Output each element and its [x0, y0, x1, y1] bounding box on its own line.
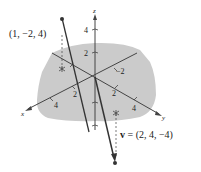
x-axis-label: x	[20, 110, 25, 118]
x-axis-arrow-icon	[25, 106, 32, 111]
y-tick-4: 4	[132, 104, 136, 113]
vector-value: = (2, 4, −4)	[125, 129, 173, 140]
x-tick-2: 2	[73, 90, 77, 99]
z-tick-4: 4	[84, 26, 88, 35]
point-dot	[60, 17, 64, 21]
y-tick-2: 2	[112, 89, 116, 98]
point-label: (1, −2, 4)	[9, 28, 46, 39]
x-tick-4: 4	[54, 101, 58, 110]
vector-v-arrowhead-icon	[111, 153, 117, 162]
z-tick-2: 2	[84, 49, 88, 58]
vector-end-dot	[113, 161, 117, 165]
y-tick-neg2: −2	[116, 67, 125, 76]
y-axis-label: y	[161, 114, 166, 122]
z-axis-label: z	[92, 7, 96, 15]
3d-line-diagram: z x y 4 2 2 4 2 4 −2 (1, −2, 4) v = (2, …	[0, 0, 201, 172]
y-axis-arrow-icon	[155, 111, 162, 116]
vector-label: v = (2, 4, −4)	[120, 129, 173, 140]
